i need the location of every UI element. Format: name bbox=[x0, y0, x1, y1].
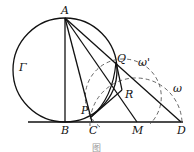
label-B: B bbox=[60, 124, 69, 137]
label-C: C bbox=[89, 124, 98, 137]
geometry-diagram: A B C M D P Q R Γ ω' ω 图 bbox=[0, 0, 194, 152]
label-M: M bbox=[131, 124, 144, 137]
label-omega-prime: ω' bbox=[138, 56, 150, 69]
figure-caption: 图 bbox=[92, 143, 101, 152]
label-gamma: Γ bbox=[18, 61, 27, 74]
label-Q: Q bbox=[117, 52, 126, 65]
label-P: P bbox=[80, 104, 89, 117]
label-omega: ω bbox=[173, 82, 182, 95]
circle-omega-prime bbox=[85, 59, 161, 127]
label-A: A bbox=[60, 4, 69, 17]
arc-PQ bbox=[91, 62, 116, 117]
label-D: D bbox=[176, 124, 186, 137]
label-R: R bbox=[124, 88, 133, 101]
